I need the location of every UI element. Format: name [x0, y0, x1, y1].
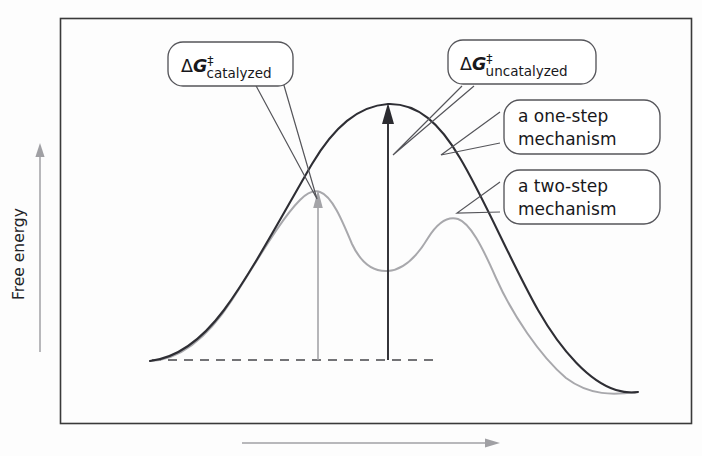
- delta-glyph-catalyzed: Δ: [181, 56, 193, 76]
- subscript-catalyzed: catalyzed: [207, 65, 272, 81]
- callout-one-step-line2: mechanism: [518, 129, 616, 149]
- callout-two-step[interactable]: a two-step mechanism: [504, 170, 660, 224]
- callout-two-step-line2: mechanism: [518, 199, 616, 219]
- subscript-uncatalyzed: uncatalyzed: [486, 63, 568, 79]
- y-axis-arrow: [35, 143, 44, 352]
- callout-one-step[interactable]: a one-step mechanism: [504, 100, 660, 154]
- g-glyph-uncatalyzed: G: [472, 54, 486, 74]
- delta-glyph-uncatalyzed: Δ: [460, 54, 472, 74]
- g-glyph-catalyzed: G: [193, 56, 207, 76]
- callout-dg-catalyzed[interactable]: ΔG‡catalyzed: [168, 42, 293, 86]
- callout-one-step-line1: a one-step: [518, 106, 608, 126]
- energy-diagram-figure: Free energy: [0, 0, 702, 456]
- callout-dg-uncatalyzed[interactable]: ΔG‡uncatalyzed: [448, 40, 596, 84]
- callout-two-step-line1: a two-step: [518, 176, 608, 196]
- x-axis-arrow: [242, 438, 500, 447]
- y-axis-label: Free energy: [10, 208, 28, 300]
- diagram-canvas: Free energy: [0, 0, 702, 456]
